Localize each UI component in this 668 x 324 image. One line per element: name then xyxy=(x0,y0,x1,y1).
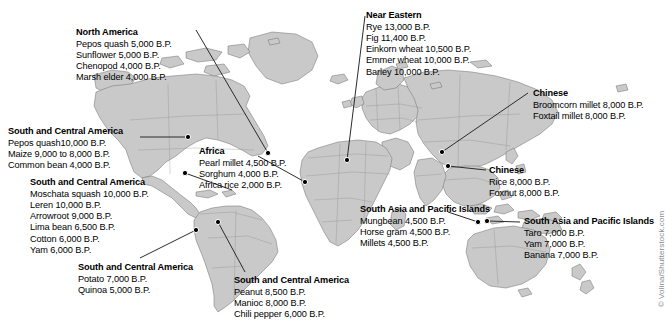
callout-item: Foxtail millet 8,000 B.P. xyxy=(533,111,644,122)
callout-item: Emmer wheat 10,000 B.P. xyxy=(366,55,471,66)
callout-item: Mungbean 4,500 B.P. xyxy=(360,216,490,227)
callout-item: Barley 10,000 B.P. xyxy=(366,67,471,78)
callout-item: Marsh elder 4,000 B.P. xyxy=(76,72,172,83)
callout-chinese-north: Chinese Broomcorn millet 8,000 B.P. Foxt… xyxy=(533,88,644,122)
callout-title: Chinese xyxy=(489,165,560,176)
callout-item: Lima bean 6,500 B.P. xyxy=(30,222,149,233)
callout-chinese-south: Chinese Rice 8,000 B.P. Foxnut 8,000 B.P… xyxy=(489,165,560,199)
callout-title: Africa xyxy=(199,146,286,157)
callout-item: Moschata squash 10,000 B.P. xyxy=(30,189,149,200)
callout-title: South and Central America xyxy=(78,262,193,273)
callout-item: Rice 8,000 B.P. xyxy=(489,177,560,188)
callout-south-central-america-2: South and Central America Moschata squas… xyxy=(30,177,149,256)
callout-item: Banana 7,000 B.P. xyxy=(524,250,654,261)
callout-north-america: North America Pepos quash 5,000 B.P. Sun… xyxy=(76,27,172,84)
callout-title: South and Central America xyxy=(30,177,149,188)
callout-item: Horse gram 4,500 B.P. xyxy=(360,227,490,238)
callout-item: Einkorn wheat 10,500 B.P. xyxy=(366,44,471,55)
callout-item: Millets 4,500 B.P. xyxy=(360,238,490,249)
callout-item: Common bean 4,000 B.P. xyxy=(8,160,123,171)
callout-south-central-america-1: South and Central America Pepos quash10,… xyxy=(8,126,123,171)
callout-item: Broomcorn millet 8,000 B.P. xyxy=(533,100,644,111)
callout-item: Peanut 8,500 B.P. xyxy=(234,287,349,298)
callout-item: Chili pepper 6,000 B.P. xyxy=(234,309,349,320)
callout-south-central-america-4: South and Central America Peanut 8,500 B… xyxy=(234,275,349,320)
callout-item: Pepos quash 5,000 B.P. xyxy=(76,39,172,50)
callout-near-eastern: Near Eastern Rye 13,000 B.P. Fig 11,400 … xyxy=(366,10,471,78)
credit-watermark-container: © Volina/Shutterstock.com xyxy=(654,194,668,324)
callout-item: Yam 6,000 B.P. xyxy=(30,245,149,256)
callout-item: Chenopod 4,000 B.P. xyxy=(76,61,172,72)
callout-item: Sorghum 4,000 B.P. xyxy=(199,169,286,180)
callout-item: Potato 7,000 B.P. xyxy=(78,274,193,285)
callout-item: Manioc 8,000 B.P. xyxy=(234,298,349,309)
callout-item: Yam 7,000 B.P. xyxy=(524,239,654,250)
callout-item: Sunflower 5,000 B.P. xyxy=(76,50,172,61)
callout-title: North America xyxy=(76,27,172,38)
callout-title: South and Central America xyxy=(8,126,123,137)
callout-item: Fig 11,400 B.P. xyxy=(366,33,471,44)
credit-watermark: © Volina/Shutterstock.com xyxy=(657,211,666,307)
callout-title: South and Central America xyxy=(234,275,349,286)
callout-title: Near Eastern xyxy=(366,10,471,21)
callout-item: Quinoa 5,000 B.P. xyxy=(78,285,193,296)
callout-africa: Africa Pearl millet 4,500 B.P. Sorghum 4… xyxy=(199,146,286,191)
callout-item: Rye 13,000 B.P. xyxy=(366,22,471,33)
callout-item: Pearl millet 4,500 B.P. xyxy=(199,158,286,169)
crop-origins-map-figure: North America Pepos quash 5,000 B.P. Sun… xyxy=(0,0,668,324)
callout-title: Chinese xyxy=(533,88,644,99)
callout-title: South Asia and Pacific Islands xyxy=(524,216,654,227)
callout-item: Africa rice 2,000 B.P. xyxy=(199,180,286,191)
callout-south-central-america-3: South and Central America Potato 7,000 B… xyxy=(78,262,193,296)
callout-item: Maize 9,000 to 8,000 B.P. xyxy=(8,149,123,160)
callout-item: Cotton 6,000 B.P. xyxy=(30,234,149,245)
callout-item: Foxnut 8,000 B.P. xyxy=(489,188,560,199)
callout-item: Taro 7,000 B.P. xyxy=(524,228,654,239)
callout-south-asia-pacific-2: South Asia and Pacific Islands Taro 7,00… xyxy=(524,216,654,261)
callout-item: Pepos quash10,000 B.P. xyxy=(8,138,123,149)
callout-item: Arrowroot 9,000 B.P. xyxy=(30,211,149,222)
callout-item: Leren 10,000 B.P. xyxy=(30,200,149,211)
callout-title: South Asia and Pacific Islands xyxy=(360,204,490,215)
callout-south-asia-pacific-1: South Asia and Pacific Islands Mungbean … xyxy=(360,204,490,249)
